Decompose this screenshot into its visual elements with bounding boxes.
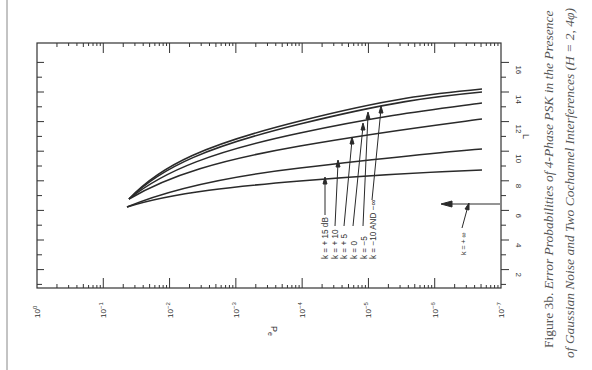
x-tick-label: 10−1: [98, 302, 108, 318]
y-tick-label: 14: [514, 95, 523, 104]
curves: [127, 89, 482, 207]
k-label-minus10-and-minus-inf: k = −10 AND −∞: [369, 200, 378, 259]
k-label-minus5: k = −5: [360, 236, 369, 259]
y-axis-label: L: [521, 134, 531, 139]
x-axis-label: Pe: [267, 326, 279, 336]
curve-k-0: [129, 103, 482, 199]
y-tick-label: 12: [514, 125, 523, 134]
x-tick-label: 10−6: [430, 302, 440, 318]
k-label-0: k = 0: [350, 241, 359, 259]
k-label-plus5: k = + 5: [340, 234, 349, 259]
plot-frame: [37, 43, 501, 288]
curve-k-minus10-and-minus-inf: [129, 89, 482, 199]
figure-caption-line2: of Gaussian Noise and Two Cochannel Inte…: [562, 8, 578, 358]
x-minor-ticks-top: [57, 43, 498, 53]
curve-k-plus5: [129, 119, 482, 199]
y-tick-label: 16: [514, 65, 523, 74]
x-tick-label: 10−5: [363, 302, 373, 318]
x-tick-labels: 10010−110−210−310−410−510−610−7: [32, 302, 506, 318]
x-tick-label: 10−2: [165, 302, 175, 318]
y-ticks-right: [501, 62, 509, 284]
y-tick-label: 10: [514, 154, 523, 163]
y-tick-label: 8: [514, 184, 523, 189]
k-label-plus-inf: k = + ∞: [460, 232, 467, 255]
chart-area: 10010−110−210−310−410−510−610−7 24681012…: [0, 0, 592, 370]
x-tick-label: 10−3: [231, 302, 241, 318]
annotation-arrows: [323, 106, 500, 228]
x-tick-label: 10−4: [297, 302, 307, 318]
k-labels: k = + 15 dB k = + 10 k = + 5 k = 0 k = −…: [321, 200, 467, 259]
caption-figure-number: Figure 3b.: [541, 293, 556, 349]
x-tick-label: 100: [32, 305, 42, 318]
curve-k-plus10: [127, 149, 482, 207]
y-tick-label: 2: [514, 273, 523, 278]
k-label-plus10: k = + 10: [331, 229, 340, 259]
k-label-plus15: k = + 15 dB: [321, 217, 330, 259]
y-tick-labels: 246810121416: [514, 65, 523, 277]
y-tick-label: 4: [514, 243, 523, 248]
y-tick-label: 6: [514, 213, 523, 218]
y-ticks-left: [37, 62, 44, 284]
x-minor-ticks-bottom: [57, 278, 498, 288]
caption-text-line1: Error Probabilities of 4-Phase PSK in th…: [541, 11, 556, 290]
figure-caption-line1: Figure 3b. Error Probabilities of 4-Phas…: [541, 11, 557, 348]
x-tick-label: 10−7: [496, 302, 506, 318]
